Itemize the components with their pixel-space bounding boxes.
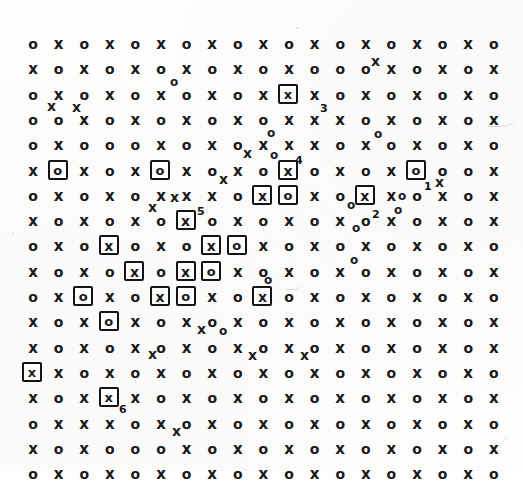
scan-speck xyxy=(60,452,62,453)
scan-speck xyxy=(466,64,469,66)
scan-edge-curl xyxy=(488,112,516,127)
scan-speck xyxy=(12,232,14,234)
scan-speck xyxy=(296,27,299,29)
scan-edge-curl xyxy=(286,281,300,290)
scan-speck xyxy=(505,437,507,439)
